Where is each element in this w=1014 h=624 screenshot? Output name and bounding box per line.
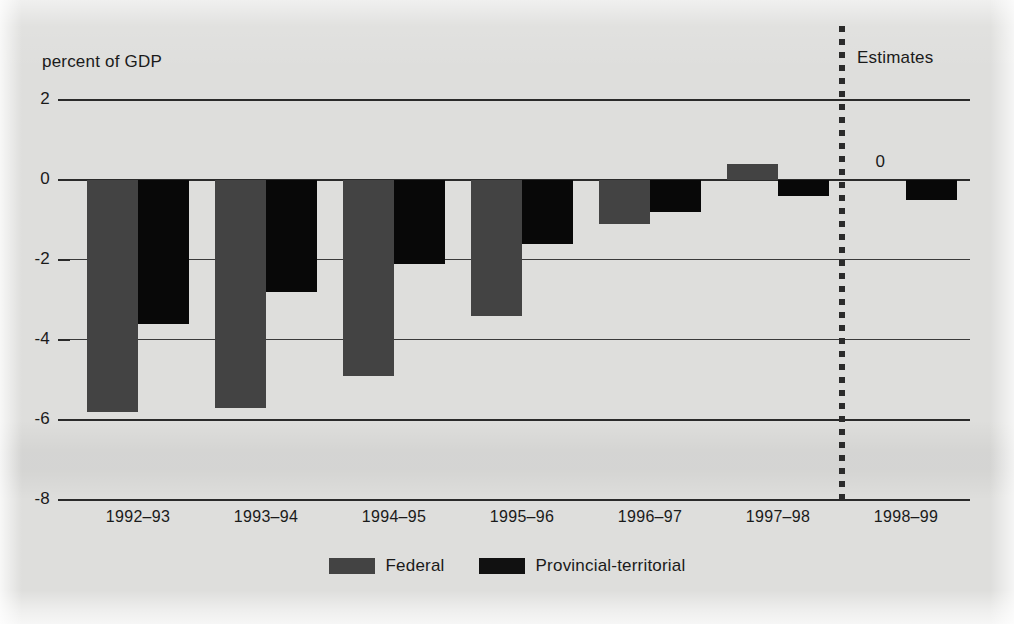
bar-provincial-territorial-1992-93 [138, 180, 189, 324]
legend-entry-federal: Federal [329, 556, 445, 576]
y-tick-label: -8 [6, 489, 50, 509]
legend-swatch-provincial-territorial [479, 558, 525, 574]
bar-provincial-territorial-1994-95 [394, 180, 445, 264]
x-tick-label-1995-96: 1995–96 [458, 508, 586, 526]
x-tick-label-1998-99: 1998–99 [842, 508, 970, 526]
y-tick-label: 2 [6, 89, 50, 109]
estimates-divider-line [839, 26, 845, 504]
bar-federal-1994-95 [343, 180, 394, 376]
x-tick-label-1997-98: 1997–98 [714, 508, 842, 526]
gridline-neg8 [70, 499, 970, 501]
y-tick-stub [58, 499, 70, 501]
gridline-neg6 [70, 419, 970, 421]
x-tick-label-1996-97: 1996–97 [586, 508, 714, 526]
y-tick-label: 0 [6, 169, 50, 189]
chart-legend: FederalProvincial-territorial [0, 556, 1014, 576]
y-tick-stub [58, 179, 70, 181]
y-tick-label: -4 [6, 329, 50, 349]
bar-federal-1996-97 [599, 180, 650, 224]
bar-federal-1995-96 [471, 180, 522, 316]
chart-figure: percent of GDP 20-2-4-6-8 1992–931993–94… [0, 0, 1014, 624]
legend-label: Provincial-territorial [536, 556, 686, 576]
bar-federal-1997-98 [727, 164, 778, 180]
gridline-2 [70, 99, 970, 101]
federal-1998-99-value-label: 0 [876, 152, 885, 172]
bar-federal-1992-93 [87, 180, 138, 412]
bar-provincial-territorial-1993-94 [266, 180, 317, 292]
legend-swatch-federal [329, 558, 375, 574]
legend-label: Federal [386, 556, 445, 576]
bar-provincial-territorial-1996-97 [650, 180, 701, 212]
y-tick-label: -6 [6, 409, 50, 429]
y-tick-stub [58, 99, 70, 101]
x-tick-label-1993-94: 1993–94 [202, 508, 330, 526]
y-tick-stub [58, 339, 70, 341]
bar-provincial-territorial-1995-96 [522, 180, 573, 244]
x-tick-label-1992-93: 1992–93 [74, 508, 202, 526]
y-tick-stub [58, 259, 70, 261]
legend-entry-provincial-territorial: Provincial-territorial [479, 556, 686, 576]
y-tick-label: -2 [6, 249, 50, 269]
x-tick-label-1994-95: 1994–95 [330, 508, 458, 526]
bar-federal-1993-94 [215, 180, 266, 408]
estimates-region-label: Estimates [857, 48, 933, 68]
y-tick-stub [58, 419, 70, 421]
bar-provincial-territorial-1998-99 [906, 180, 957, 200]
y-axis-title: percent of GDP [42, 52, 162, 72]
bar-provincial-territorial-1997-98 [778, 180, 829, 196]
gridline-neg4 [70, 339, 970, 340]
plot-area: percent of GDP 20-2-4-6-8 1992–931993–94… [0, 0, 1014, 624]
